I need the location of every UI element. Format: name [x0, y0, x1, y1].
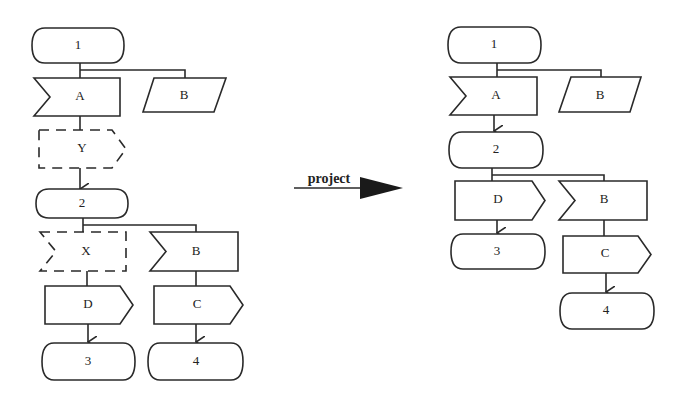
node-label: 1 [75, 37, 82, 52]
node-label: 2 [79, 195, 86, 210]
node-x: X [40, 232, 126, 271]
node-b-top: B [143, 78, 226, 112]
node-label: A [75, 88, 85, 103]
right-diagram: 1 A B 2 D B 3 [448, 27, 654, 329]
node-1: 1 [448, 27, 541, 63]
node-label: B [596, 87, 605, 102]
node-d: D [45, 286, 133, 324]
node-1: 1 [32, 28, 124, 63]
project-arrow: project [294, 171, 403, 199]
node-b-top: B [559, 77, 641, 112]
node-label: C [601, 245, 610, 260]
node-label: X [81, 243, 91, 258]
node-y: Y [39, 130, 126, 168]
node-b-mid: B [559, 181, 647, 220]
node-2: 2 [36, 189, 128, 218]
node-label: D [83, 296, 92, 311]
node-label: B [192, 243, 201, 258]
diagram-canvas: 1 A B Y 2 X B [0, 0, 683, 395]
node-label: 3 [494, 243, 501, 258]
project-label: project [308, 171, 351, 186]
node-3: 3 [42, 343, 135, 380]
edge-2-b [83, 225, 196, 232]
node-label: C [193, 296, 202, 311]
arrow-head-icon [360, 177, 403, 199]
node-4: 4 [148, 343, 243, 380]
node-label: 3 [85, 353, 92, 368]
node-label: Y [77, 140, 87, 155]
node-label: D [493, 191, 502, 206]
node-label: 1 [491, 36, 498, 51]
node-label: 4 [193, 353, 200, 368]
node-3: 3 [451, 234, 545, 269]
node-label: B [180, 87, 189, 102]
node-label: 4 [603, 302, 610, 317]
node-2: 2 [449, 132, 543, 168]
edge-1-b [80, 70, 185, 78]
left-diagram: 1 A B Y 2 X B [32, 28, 243, 380]
node-c: C [563, 236, 651, 273]
node-b-mid: B [150, 232, 238, 271]
node-d: D [455, 181, 545, 220]
node-label: 2 [493, 141, 500, 156]
node-c: C [154, 286, 243, 324]
node-a: A [34, 78, 120, 116]
edge-1-b [497, 70, 601, 77]
node-a: A [450, 77, 537, 115]
node-label: B [600, 191, 609, 206]
edge-2-b [492, 175, 604, 181]
node-4: 4 [560, 293, 654, 329]
node-label: A [491, 87, 501, 102]
